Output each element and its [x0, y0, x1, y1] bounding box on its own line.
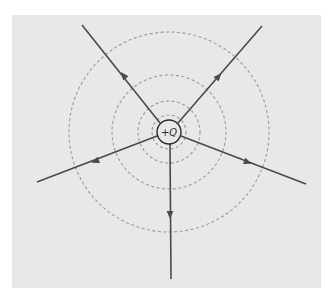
- diagram-panel: [12, 15, 321, 288]
- charge-label: +Q: [161, 127, 177, 138]
- electric-field-diagram: +Q: [0, 0, 330, 295]
- point-charge: +Q: [157, 120, 181, 144]
